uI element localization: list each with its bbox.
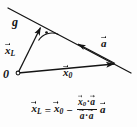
fraction-num-symbol2: a	[90, 97, 95, 107]
vector-arrow-accent-num2: a	[90, 97, 95, 108]
label-xL-subscript: L	[11, 49, 16, 58]
right-angle-arc-icon	[39, 33, 59, 40]
vector-arrow-accent-a: a	[101, 38, 107, 49]
label-origin: 0	[3, 68, 9, 80]
vector-arrow-accent-x0: x	[63, 67, 69, 78]
projection-formula: x L = x 0 −	[0, 92, 137, 127]
vector-arrow-accent-term1: x	[54, 103, 60, 114]
vector-arrow-accent-den1: a	[80, 111, 85, 122]
fraction-den-symbol1: a	[80, 111, 85, 121]
label-line-g-text: g	[12, 15, 18, 29]
vector-arrow-accent-xL: x	[5, 45, 11, 56]
formula-term1-symbol: x	[54, 102, 60, 114]
label-vector-x0: x 0	[63, 67, 72, 79]
label-vector-a: a	[101, 38, 107, 49]
label-a-symbol: a	[101, 37, 107, 49]
formula-lhs: x L	[31, 103, 41, 115]
vector-arrow-accent-lhs: x	[31, 103, 37, 114]
formula-lhs-subscript: L	[37, 107, 42, 116]
formula-fraction: x 0· a	[77, 97, 97, 122]
vector-projection-figure: g x L a x 0 0	[0, 0, 137, 127]
formula-term1-subscript: 0	[59, 107, 63, 116]
label-line-g: g	[12, 16, 18, 28]
fraction-denominator: a · a	[78, 111, 95, 122]
line-g	[8, 8, 131, 73]
vector-a-shaft	[78, 44, 115, 64]
formula-lhs-symbol: x	[31, 102, 37, 114]
formula-row: x L = x 0 −	[31, 97, 105, 122]
label-x0-subscript: 0	[69, 71, 73, 80]
label-vector-xL: x L	[5, 45, 15, 57]
formula-trailing-vector: a	[100, 104, 106, 115]
formula-minus: −	[66, 104, 73, 116]
vector-arrow-accent-num1: x	[78, 97, 83, 108]
vector-arrow-accent-den2: a	[89, 111, 94, 122]
formula-trailing-symbol: a	[100, 103, 106, 115]
label-x0-symbol: x	[63, 66, 69, 78]
fraction-den-symbol2: a	[89, 111, 94, 121]
right-angle-dot-icon	[45, 31, 48, 34]
vector-arrow-accent-trailing: a	[100, 104, 106, 115]
fraction-numerator: x 0· a	[77, 97, 97, 108]
vector-xL-shaft	[18, 28, 41, 74]
formula-equals: =	[44, 104, 51, 116]
origin-point-marker	[16, 71, 20, 75]
label-xL-symbol: x	[5, 44, 11, 56]
formula-term1: x 0	[54, 103, 63, 115]
label-origin-text: 0	[3, 67, 9, 81]
fraction-num-symbol1: x	[78, 97, 83, 107]
